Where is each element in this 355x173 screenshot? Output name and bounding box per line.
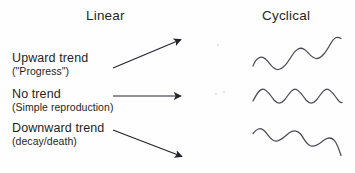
wave-ascending-icon <box>253 37 341 69</box>
wave-descending-icon <box>253 129 341 156</box>
arrow-up-right-icon <box>113 40 181 69</box>
scan-speck <box>217 44 219 46</box>
linear-vs-cyclical-diagram: Linear Cyclical Upward trend ("Progress"… <box>0 0 355 173</box>
diagram-vector-layer <box>0 0 355 173</box>
scan-speck <box>215 93 217 95</box>
arrow-down-right-icon <box>113 130 182 157</box>
scan-speck <box>223 91 225 93</box>
wave-flat-icon <box>253 89 342 103</box>
